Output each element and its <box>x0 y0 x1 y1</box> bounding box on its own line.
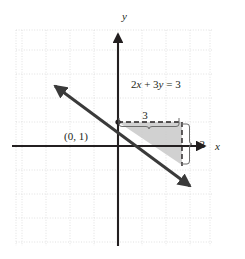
rise-label: –2 <box>193 138 205 150</box>
intercept-label: (0, 1) <box>64 130 88 143</box>
y-intercept-point <box>115 119 120 124</box>
y-axis-label: y <box>121 10 127 22</box>
graph-figure: 2x + 3y = 3 (0, 1) 3 –2 x y <box>0 0 245 259</box>
equation-label: 2x + 3y = 3 <box>131 78 181 90</box>
x-axis-label: x <box>214 140 220 152</box>
slope-triangle-shading <box>118 122 182 165</box>
coordinate-plane-svg: 2x + 3y = 3 (0, 1) 3 –2 x y <box>0 0 245 259</box>
equation-equals: = <box>164 78 176 90</box>
equation-plus: + <box>141 78 153 90</box>
run-label: 3 <box>142 109 148 121</box>
equation-constant: 3 <box>175 78 181 90</box>
